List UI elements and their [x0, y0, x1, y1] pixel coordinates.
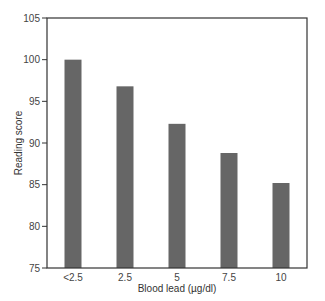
x-tick-label: <2.5 [63, 272, 83, 283]
bar-2 [169, 124, 186, 268]
y-tick-label: 80 [29, 221, 41, 232]
x-tick-label: 2.5 [118, 272, 132, 283]
x-tick-label: 10 [275, 272, 287, 283]
y-axis: 7580859095100105 [23, 13, 47, 274]
y-tick-label: 75 [29, 263, 41, 274]
y-tick-label: 95 [29, 96, 41, 107]
bar-0 [65, 60, 82, 268]
x-axis-title: Blood lead (µg/dl) [138, 283, 217, 294]
x-tick-label: 7.5 [222, 272, 236, 283]
x-axis: <2.52.557.510 [63, 272, 287, 283]
bar-3 [221, 153, 238, 268]
bar-4 [273, 183, 290, 268]
bars-group [65, 60, 290, 268]
bar-chart: 7580859095100105 <2.52.557.510 Blood lea… [0, 0, 325, 301]
y-tick-label: 100 [23, 54, 40, 65]
y-tick-label: 105 [23, 13, 40, 24]
y-tick-label: 85 [29, 179, 41, 190]
x-tick-label: 5 [174, 272, 180, 283]
y-axis-title: Reading score [13, 110, 24, 175]
bar-1 [117, 86, 134, 268]
y-tick-label: 90 [29, 138, 41, 149]
